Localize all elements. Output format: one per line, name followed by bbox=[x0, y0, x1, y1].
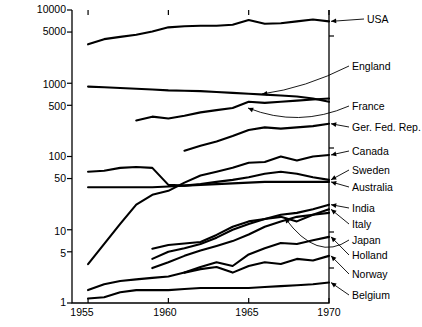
series-label-india: India bbox=[352, 203, 375, 214]
x-tick-label-1960: 1960 bbox=[143, 307, 187, 318]
y-tick-label-1: 1 bbox=[2, 297, 66, 308]
series-lines bbox=[88, 20, 329, 299]
series-label-italy: Italy bbox=[352, 219, 371, 230]
series-label-france: France bbox=[352, 101, 385, 112]
series-line-belgium bbox=[88, 283, 329, 299]
axis-frame bbox=[72, 10, 329, 303]
y-tick-label-10000: 10000 bbox=[2, 4, 66, 15]
y-tick-label-100: 100 bbox=[2, 151, 66, 162]
series-label-japan: Japan bbox=[352, 235, 381, 246]
series-label-germany: Ger. Fed. Rep. bbox=[352, 122, 421, 133]
series-label-sweden: Sweden bbox=[352, 165, 390, 176]
series-line-ger-fed-rep bbox=[184, 124, 329, 151]
series-line-england bbox=[88, 87, 329, 102]
series-label-holland: Holland bbox=[352, 250, 388, 261]
series-label-england: England bbox=[352, 61, 391, 72]
series-label-australia: Australia bbox=[352, 182, 393, 193]
x-tick-label-1955: 1955 bbox=[60, 307, 104, 318]
x-tick-label-1970: 1970 bbox=[307, 307, 351, 318]
series-label-norway: Norway bbox=[352, 269, 388, 280]
log-line-chart: 10000 5000 1000 500 100 50 10 5 1 1955 1… bbox=[0, 0, 422, 327]
series-label-usa: USA bbox=[367, 14, 389, 25]
y-tick-label-5000: 5000 bbox=[2, 26, 66, 37]
series-label-belgium: Belgium bbox=[352, 290, 390, 301]
y-tick-label-500: 500 bbox=[2, 101, 66, 112]
y-tick-label-10: 10 bbox=[2, 226, 66, 237]
label-leader-lines bbox=[248, 19, 364, 295]
y-tick-marks bbox=[67, 10, 72, 303]
x-tick-label-1965: 1965 bbox=[225, 307, 269, 318]
y-tick-label-1000: 1000 bbox=[2, 79, 66, 90]
series-line-usa bbox=[88, 20, 329, 45]
y-tick-label-5: 5 bbox=[2, 248, 66, 259]
y-tick-label-50: 50 bbox=[2, 173, 66, 184]
series-label-canada: Canada bbox=[352, 146, 389, 157]
